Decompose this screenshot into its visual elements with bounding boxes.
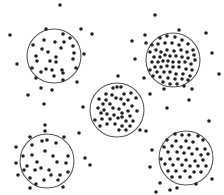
cluster-dot [117,107,121,111]
cluster-dot [111,86,115,90]
scattered-dot [120,115,124,119]
cluster-dot [54,60,58,64]
cluster-dot [168,157,172,161]
cluster-dot [39,166,43,170]
cluster-dot [186,78,190,82]
cluster-dot [173,132,177,136]
cluster-dot [173,35,177,39]
scattered-dot [165,106,169,110]
cluster-dot [33,168,37,172]
scattered-dot [144,129,148,133]
cluster-dot [30,66,34,70]
cluster-dot [108,102,112,106]
cluster-dot [163,53,167,57]
cluster-dot [148,50,152,54]
cluster-dot [124,119,128,123]
cluster-dot [199,170,203,174]
cluster-dot [21,154,25,158]
cluster-dot [126,98,130,102]
cluster-dot [42,178,46,182]
cluster-dot [31,43,35,47]
cluster-dot [62,40,66,44]
cluster-dot [71,57,75,61]
cluster-dot [28,176,32,180]
cluster-dot [196,134,200,138]
cluster-bottom-right [159,131,213,185]
scattered-dot [175,186,179,190]
cluster-dot [53,40,57,44]
cluster-dot [186,56,190,60]
cluster-dot [44,67,48,71]
cluster-dot [201,158,205,162]
scattered-dot [148,92,152,96]
cluster-dot [176,157,180,161]
cluster-dot [158,55,162,59]
scattered-dot [34,76,38,80]
cluster-dot [119,97,123,101]
scattered-dot [61,185,65,189]
cluster-dot [187,146,191,150]
cluster-dot [180,133,184,137]
cluster-dot [181,72,185,76]
cluster-dot [166,59,170,63]
cluster-dot [155,70,159,74]
cluster-center [90,83,144,137]
scattered-dot [15,62,19,66]
cluster-dot [156,60,160,64]
scattered-dot [93,118,97,122]
cluster-dot [161,59,165,63]
cluster-dot [184,139,188,143]
cluster-dot [151,74,155,78]
scattered-dot [43,123,47,127]
scattered-dot [82,52,86,56]
scattered-dot [58,3,62,7]
scattered-dot [75,80,79,84]
cluster-dot [51,154,55,158]
cluster-dot [206,152,210,156]
cluster-dot [188,175,192,179]
scattered-dot [143,33,147,37]
cluster-dot [175,82,179,86]
cluster-dot [148,68,152,72]
cluster-dot [192,53,196,57]
cluster-dot [158,36,162,40]
cluster-dot [50,68,54,72]
cluster-dot [171,60,175,64]
cluster-dot [22,168,26,172]
cluster-dot [99,111,103,115]
scattered-dot [77,131,81,135]
cluster-dot [105,112,109,116]
scattered-dot [162,87,166,91]
scattered-dot [190,87,194,91]
cluster-dot [195,147,199,151]
cluster-dot [192,170,196,174]
scattered-dot [150,148,154,152]
cluster-dot [184,158,188,162]
cluster-dot [186,42,190,46]
cluster-dot [124,128,128,132]
cluster-dot [165,48,169,52]
cluster-dot [196,164,200,168]
cluster-dot [128,114,132,118]
cluster-dot [173,77,177,81]
cluster-dot [45,138,49,142]
cluster-dot [180,77,184,81]
cluster-dot [178,175,182,179]
cluster-dot [175,150,179,154]
cluster-dot [183,169,187,173]
scattered-dot [43,129,47,133]
cluster-dot [113,122,117,126]
cluster-dot [159,65,163,69]
cluster-dot [43,149,47,153]
cluster-dot [30,153,34,157]
cluster-dot [47,168,51,172]
cluster-dot [191,140,195,144]
cluster-dot [204,164,208,168]
cluster-dot [171,65,175,69]
cluster-dot [54,55,58,59]
cluster-dot [190,68,194,72]
cluster-dot [177,65,181,69]
cluster-boundary-circle [146,33,200,87]
cluster-dot [71,44,75,48]
cluster-dot [66,170,70,174]
